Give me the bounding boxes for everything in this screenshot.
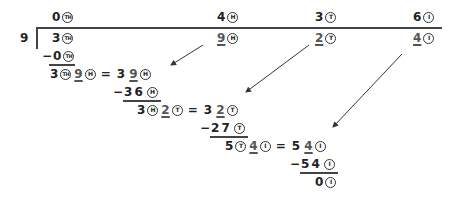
- arrow-tens-icon: [246, 45, 309, 92]
- arrow-ones-icon: [333, 54, 402, 127]
- bring-down-arrows: [0, 0, 461, 202]
- arrow-hundreds-icon: [171, 45, 203, 65]
